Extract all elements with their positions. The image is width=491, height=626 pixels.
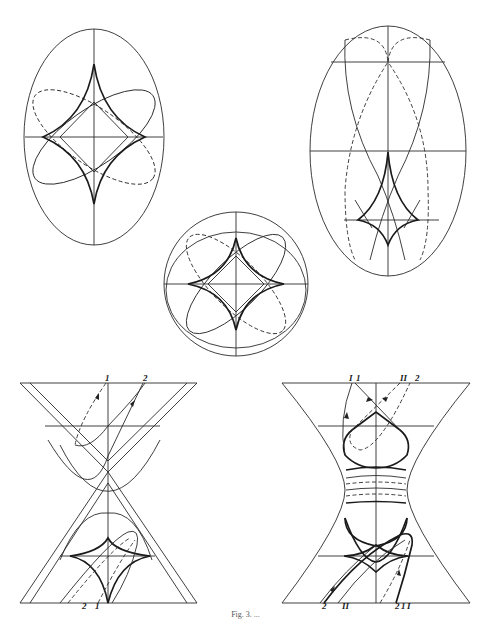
label-1-top: 1 bbox=[356, 373, 361, 383]
label-2-top: 2 bbox=[414, 373, 420, 383]
label-2-top: 2 bbox=[142, 373, 148, 383]
panel-circle-center bbox=[164, 212, 308, 356]
figure-canvas: 1 2 2 1 bbox=[0, 0, 491, 626]
label-1-top: 1 bbox=[105, 373, 110, 383]
label-II-top: II bbox=[399, 373, 408, 383]
panel-hyperboloid: I 1 II 2 2 II 2 1 I bbox=[282, 373, 470, 611]
panel-double-cone: 1 2 2 1 bbox=[20, 373, 197, 611]
figure-caption: Fig. 3. ... bbox=[0, 610, 491, 619]
label-I-top: I bbox=[348, 373, 353, 383]
panel-ellipse-left bbox=[19, 29, 169, 245]
panel-ellipse-right bbox=[310, 26, 466, 276]
